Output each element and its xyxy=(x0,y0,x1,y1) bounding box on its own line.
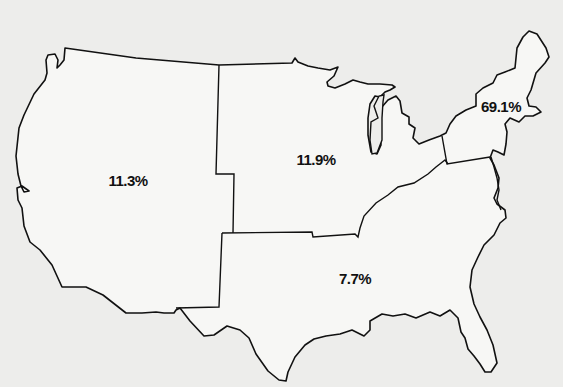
region-label-south: 7.7% xyxy=(339,270,371,287)
region-label-northeast: 69.1% xyxy=(481,98,521,115)
region-label-midwest: 11.9% xyxy=(296,151,335,168)
region-label-west: 11.3% xyxy=(108,172,147,189)
us-regions-map xyxy=(0,0,563,387)
us-outline xyxy=(16,31,549,381)
